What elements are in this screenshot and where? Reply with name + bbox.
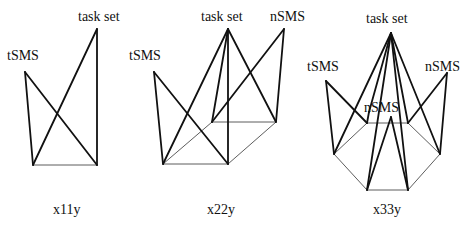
label-nsms-right: nSMS bbox=[425, 59, 460, 74]
edge bbox=[25, 72, 33, 165]
label-nsms-middle: nSMS bbox=[364, 100, 399, 115]
caption: x33y bbox=[373, 202, 401, 217]
figure-x33y: task set tSMS nSMS nSMS x33y bbox=[307, 11, 460, 217]
label-task-set: task set bbox=[201, 9, 243, 24]
edge bbox=[326, 81, 334, 154]
diagram-canvas: task set tSMS x11y task set tSMS nSMS x2… bbox=[0, 0, 471, 228]
base-edge bbox=[163, 122, 212, 164]
edge bbox=[391, 117, 408, 190]
edge bbox=[276, 29, 284, 122]
label-tsms: tSMS bbox=[307, 59, 339, 74]
edge bbox=[228, 29, 276, 122]
label-tsms: tSMS bbox=[129, 48, 161, 63]
edge bbox=[154, 72, 163, 164]
label-task-set: task set bbox=[78, 9, 120, 24]
caption: x11y bbox=[53, 202, 80, 217]
caption: x22y bbox=[207, 202, 235, 217]
edge bbox=[367, 117, 391, 190]
label-tsms: tSMS bbox=[7, 48, 39, 63]
base-edge bbox=[228, 122, 276, 164]
edge bbox=[440, 73, 447, 154]
edge bbox=[212, 29, 284, 122]
diagram-svg: task set tSMS x11y task set tSMS nSMS x2… bbox=[0, 0, 471, 228]
label-nsms: nSMS bbox=[270, 9, 305, 24]
edge bbox=[212, 29, 228, 122]
edge bbox=[25, 72, 97, 165]
figure-x11y: task set tSMS x11y bbox=[7, 9, 120, 217]
edge bbox=[154, 72, 228, 164]
figure-x22y: task set tSMS nSMS x22y bbox=[129, 9, 305, 217]
edge bbox=[33, 29, 97, 165]
base-hexagon bbox=[334, 123, 440, 190]
edge bbox=[408, 73, 447, 123]
label-task-set: task set bbox=[366, 11, 408, 26]
edge bbox=[326, 81, 367, 123]
